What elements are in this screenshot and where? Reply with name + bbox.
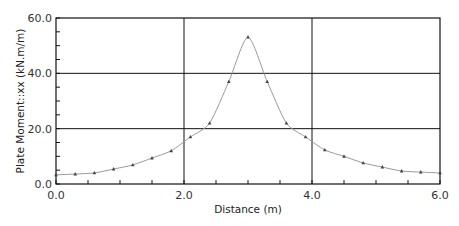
y-tick-label: 40.0 bbox=[28, 67, 53, 80]
grid-lines bbox=[56, 18, 440, 184]
data-point-marker bbox=[246, 35, 250, 38]
plot-frame bbox=[56, 18, 440, 184]
y-axis-tick-labels: 0.020.040.060.0 bbox=[28, 12, 53, 191]
x-tick-label: 0.0 bbox=[47, 189, 65, 202]
series-line bbox=[56, 37, 440, 175]
y-axis-title: Plate Moment::xx (kN.m/m) bbox=[14, 29, 26, 174]
x-tick-label: 6.0 bbox=[431, 189, 449, 202]
x-axis-tick-labels: 0.02.04.06.0 bbox=[47, 189, 449, 202]
x-tick-label: 4.0 bbox=[303, 189, 321, 202]
y-tick-label: 60.0 bbox=[28, 12, 53, 25]
y-tick-label: 20.0 bbox=[28, 123, 53, 136]
x-tick-label: 2.0 bbox=[175, 189, 193, 202]
data-series bbox=[54, 35, 442, 176]
plate-moment-chart: 0.020.040.060.0 0.02.04.06.0 Distance (m… bbox=[0, 0, 459, 226]
x-axis-title: Distance (m) bbox=[214, 203, 282, 215]
data-point-marker bbox=[227, 80, 231, 83]
minor-ticks bbox=[56, 18, 440, 184]
data-point-marker bbox=[265, 80, 269, 83]
